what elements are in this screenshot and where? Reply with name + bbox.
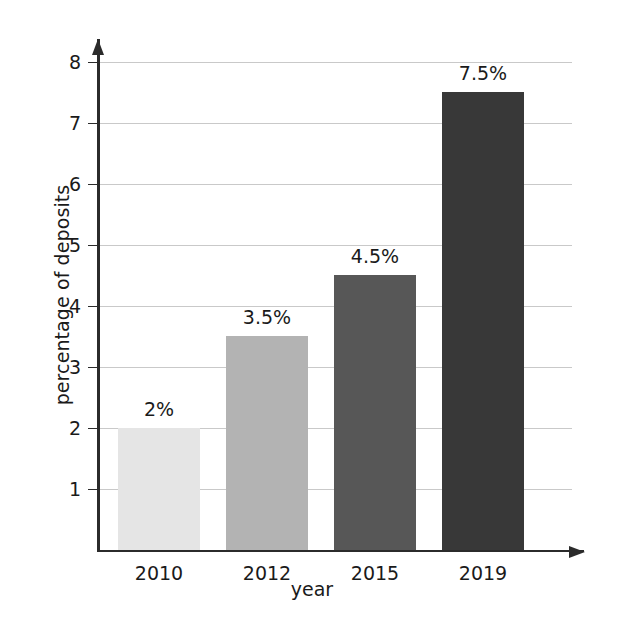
bar-value-label: 3.5%	[243, 308, 291, 327]
bar-value-label: 2%	[144, 400, 174, 419]
bar[interactable]	[334, 275, 416, 549]
bar-group[interactable]: 2%2010	[118, 428, 200, 550]
bar-value-label: 4.5%	[351, 247, 399, 266]
bar-value-label: 7.5%	[459, 64, 507, 83]
bar[interactable]	[118, 428, 200, 550]
x-axis-title: year	[0, 578, 624, 600]
bar[interactable]	[226, 336, 308, 549]
bar[interactable]	[442, 92, 524, 549]
bar-group[interactable]: 4.5%2015	[334, 275, 416, 549]
y-axis-arrow-icon	[92, 39, 104, 55]
y-axis-tick-label: 4	[55, 296, 81, 315]
plot-area: 12345678 2%20103.5%20124.5%20157.5%2019	[97, 25, 597, 552]
y-axis-tick-label: 8	[55, 52, 81, 71]
y-axis-tick-label: 7	[55, 113, 81, 132]
bar-group[interactable]: 7.5%2019	[442, 92, 524, 549]
bar-chart: percentage of deposits 12345678 2%20103.…	[0, 0, 624, 618]
bar-group[interactable]: 3.5%2012	[226, 336, 308, 549]
y-axis-tick-label: 6	[55, 174, 81, 193]
y-axis-tick-label: 5	[55, 235, 81, 254]
y-axis-tick-label: 3	[55, 357, 81, 376]
bars: 2%20103.5%20124.5%20157.5%2019	[97, 25, 597, 552]
y-axis-line	[97, 39, 100, 552]
x-axis-arrow-icon	[569, 546, 585, 558]
y-axis-tick-label: 2	[55, 418, 81, 437]
x-axis-line	[97, 550, 584, 553]
y-axis-tick-label: 1	[55, 479, 81, 498]
